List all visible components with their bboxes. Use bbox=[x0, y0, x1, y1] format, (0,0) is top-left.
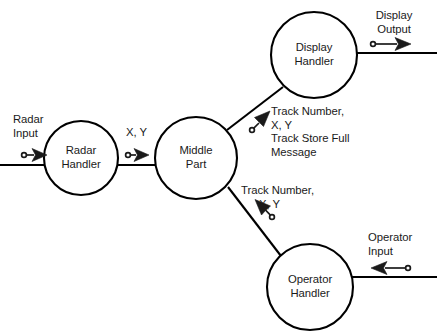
flow-label-line2: Input bbox=[368, 245, 412, 259]
flow-label-line2: X, Y bbox=[271, 119, 350, 133]
operator-input-arrow bbox=[371, 262, 410, 275]
display-output-arrow bbox=[371, 38, 411, 51]
flow-label-line1: X, Y bbox=[126, 126, 147, 140]
node-label-line1: Operator bbox=[268, 273, 352, 287]
node-label-radar-handler: Radar Handler bbox=[41, 144, 121, 171]
flow-label-line1: Display bbox=[362, 9, 426, 23]
flow-label-radar-input: Radar Input bbox=[13, 113, 44, 140]
node-label-line1: Middle bbox=[156, 144, 236, 158]
node-label-operator-handler: Operator Handler bbox=[268, 273, 352, 300]
flow-label-line1: Track Number, bbox=[271, 105, 350, 119]
node-label-display-handler: Display Handler bbox=[274, 41, 354, 68]
flow-label-display-output: Display Output bbox=[362, 9, 426, 36]
node-label-line1: Radar bbox=[41, 144, 121, 158]
flow-label-radar-to-middle: X, Y bbox=[126, 126, 147, 140]
node-label-line2: Part bbox=[156, 158, 236, 172]
node-label-middle-part: Middle Part bbox=[156, 144, 236, 171]
node-label-line2: Handler bbox=[268, 287, 352, 301]
node-label-line1: Display bbox=[274, 41, 354, 55]
flow-label-line3: Track Store Full bbox=[271, 132, 350, 146]
flow-label-line1: Track Number, bbox=[241, 184, 314, 198]
node-label-line2: Handler bbox=[41, 158, 121, 172]
flow-label-line2: Input bbox=[13, 127, 44, 141]
flow-label-operator-input: Operator Input bbox=[368, 231, 412, 258]
node-label-line2: Handler bbox=[274, 55, 354, 69]
flow-label-middle-to-display: Track Number, X, Y Track Store Full Mess… bbox=[271, 105, 350, 160]
flow-label-line4: Message bbox=[271, 146, 350, 160]
radar-to-middle-arrow bbox=[126, 149, 149, 162]
flow-label-line2: X, Y bbox=[241, 198, 314, 212]
structure-diagram: structure chart showing processing of ra… bbox=[0, 0, 437, 334]
flow-label-line1: Operator bbox=[368, 231, 412, 245]
flow-label-operator-to-middle: Track Number, X, Y bbox=[241, 184, 314, 211]
flow-label-line2: Output bbox=[362, 23, 426, 37]
flow-label-line1: Radar bbox=[13, 113, 44, 127]
middle-to-display-arrow bbox=[250, 111, 270, 132]
